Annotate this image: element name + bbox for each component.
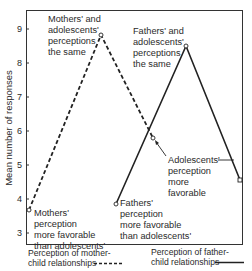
y-tick-label: 3 [17,228,22,238]
y-tick-label: 4 [17,194,22,204]
svg-text:Mothers': Mothers' [34,208,69,218]
svg-text:Adolescents': Adolescents' [168,155,220,165]
svg-text:perceptions: perceptions [48,36,96,46]
mother-point [27,208,31,212]
father-point [114,202,118,206]
svg-text:Perception of mother-: Perception of mother- [28,248,111,258]
svg-text:Fathers': Fathers' [120,198,153,208]
y-tick-label: 6 [17,126,22,136]
annotation-mother-same: Mothers' and adolescents' perceptions th… [48,14,101,57]
y-tick-label: 7 [17,92,22,102]
father-point [184,44,188,48]
annotation-father-more: Fathers' perception more favorable than … [120,198,191,241]
annotation-father-same: Fathers' and adolescents' perceptions th… [133,26,184,69]
svg-text:perception: perception [168,166,211,176]
svg-text:Perception of father-: Perception of father- [151,247,229,257]
y-tick-label: 5 [17,160,22,170]
y-axis-label: Mean number of responses [3,70,14,186]
father-point [238,178,242,182]
arrow-to-mother-point [156,142,166,156]
svg-text:perceptions: perceptions [133,48,181,58]
mother-point [151,136,155,140]
annotation-mother-more: Mothers' perception more favorable than … [34,208,105,251]
svg-text:the same: the same [133,59,171,69]
svg-text:favorable: favorable [168,188,206,198]
svg-text:perception: perception [34,219,77,229]
mother-point [99,33,103,37]
y-tick-label: 8 [17,58,22,68]
chart: 9 8 7 6 5 4 3 Mean number of responses M… [0,0,252,271]
svg-text:than adolescents': than adolescents' [120,231,191,241]
svg-text:child relationships: child relationships [28,258,96,268]
svg-text:adolescents': adolescents' [133,37,184,47]
y-tick-label: 9 [17,24,22,34]
svg-text:child relationships: child relationships [151,257,219,267]
legend-father: Perception of father- child relationship… [151,247,244,267]
svg-text:more favorable: more favorable [34,230,95,240]
svg-text:the same: the same [48,47,86,57]
svg-text:more: more [168,177,189,187]
svg-text:perception: perception [120,209,163,219]
svg-text:Mothers' and: Mothers' and [48,14,101,24]
svg-text:more favorable: more favorable [120,220,181,230]
legend-mother: Perception of mother- child relationship… [28,248,124,268]
svg-text:Fathers' and: Fathers' and [133,26,184,36]
svg-text:adolescents': adolescents' [48,25,99,35]
annotation-adolescent-more: Adolescents' perception more favorable [155,140,237,198]
y-axis: 9 8 7 6 5 4 3 Mean number of responses [3,24,29,238]
